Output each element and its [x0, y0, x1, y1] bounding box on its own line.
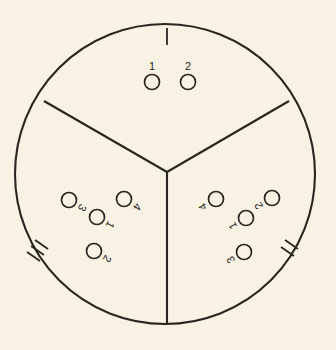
node-label: 2	[185, 60, 191, 72]
node-label: 1	[149, 60, 155, 72]
figure-root: 1234124213	[0, 0, 336, 350]
sectored-circle-diagram: 1234124213	[0, 0, 336, 350]
